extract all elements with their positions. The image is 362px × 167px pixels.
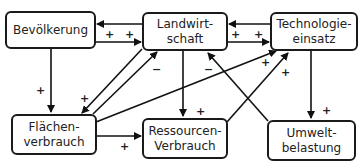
sign-flaechen-tech: + <box>261 56 270 69</box>
node-label-line1: Flächen- <box>28 120 79 135</box>
node-label-line1: Ressourcen- <box>148 124 221 139</box>
node-label-line1: Technologie- <box>276 17 351 32</box>
node-label-line2: Verbrauch <box>154 139 215 154</box>
edge-ressourcen-technologie <box>227 53 288 122</box>
node-landwirtschaft: Landwirt- schaft <box>142 12 228 51</box>
node-technologieeinsatz: Technologie- einsatz <box>270 12 358 51</box>
sign-lw-flaechen: + <box>80 92 89 105</box>
node-label-line2: belastung <box>282 141 341 156</box>
sign-lw-tech-1: + <box>231 28 240 41</box>
edge-landwirtschaft-flaechen <box>82 49 142 113</box>
sign-bev-lw-2: + <box>125 28 134 41</box>
sign-tech-umwelt: + <box>322 104 331 117</box>
sign-ressourcen-tech: + <box>281 66 290 79</box>
node-label-line2: verbrauch <box>23 135 84 150</box>
node-label: Bevölkerung <box>13 23 88 38</box>
edge-flaechen-landwirtschaft <box>93 52 157 114</box>
sign-flaechen-lw: − <box>152 63 161 76</box>
sign-flaechen-ressourcen: + <box>120 140 129 153</box>
sign-bev-lw-1: + <box>105 28 114 41</box>
node-label-line1: Umwelt- <box>286 126 336 141</box>
sign-lw-tech-2: + <box>254 28 263 41</box>
node-flaechenverbrauch: Flächen- verbrauch <box>11 114 97 155</box>
sign-bev-flaechen: + <box>36 84 45 97</box>
node-label-line2: einsatz <box>293 32 336 47</box>
sign-lw-ressourcen: + <box>196 105 205 118</box>
edge-flaechen-technologie <box>96 51 276 122</box>
node-label-line2: schaft <box>167 32 204 47</box>
node-label-line1: Landwirt- <box>157 17 213 32</box>
node-umweltbelastung: Umwelt- belastung <box>267 120 356 161</box>
node-ressourcenverbrauch: Ressourcen- Verbrauch <box>142 118 228 159</box>
sign-umwelt-lw: − <box>204 63 213 76</box>
node-bevoelkerung: Bevölkerung <box>5 11 96 49</box>
